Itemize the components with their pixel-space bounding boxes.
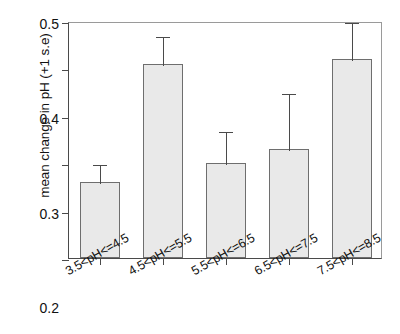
error-bar-line [289,94,290,151]
bar-chart-figure: mean change in pH (+1 s.e) 0.00.10.20.30… [0,0,400,334]
bar [332,59,372,258]
error-bar-cap [93,165,107,166]
y-axis-tick: 0.1 [62,213,69,214]
error-bar-cap [345,23,359,24]
error-bar-cap [156,37,170,38]
y-axis-tick: 0.4 [62,70,69,71]
plot-area: 0.00.10.20.30.40.5 [68,22,382,259]
error-bar-cap [282,94,296,95]
error-bar-line [226,132,227,165]
y-axis-tick-label: 0.4 [39,110,61,126]
error-bar-line [163,37,164,65]
y-axis-tick: 0.2 [62,165,69,166]
y-axis-tick: 0.0 [62,260,69,261]
y-axis-tick-label: 0.2 [39,300,61,316]
error-bar-cap [219,132,233,133]
y-axis-tick: 0.5 [62,23,69,24]
y-axis-tick: 0.3 [62,118,69,119]
y-axis-tick-label: 0.3 [39,205,61,221]
y-axis-tick-label: 0.5 [39,16,61,32]
bar [143,64,183,258]
error-bar-line [100,165,101,184]
error-bar-line [352,23,353,61]
